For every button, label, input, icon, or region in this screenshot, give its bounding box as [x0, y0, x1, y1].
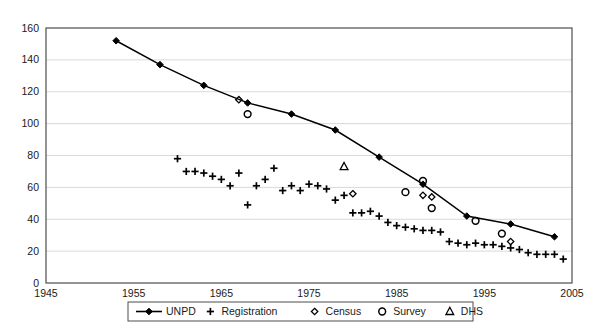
x-tick-label: 1985 [385, 287, 409, 299]
x-tick-label: 2005 [560, 287, 584, 299]
legend-label-registration: Registration [221, 305, 277, 317]
y-tick-label: 20 [27, 245, 39, 257]
y-tick-label: 40 [27, 213, 39, 225]
legend-label-dhs: DHS [461, 305, 483, 317]
legend-label-survey: Survey [393, 305, 426, 317]
x-tick-label: 1955 [122, 287, 146, 299]
chart-legend: UNPDRegistrationCensusSurveyDHS [128, 302, 483, 321]
x-tick-label: 1945 [34, 287, 58, 299]
legend-label-unpd: UNPD [166, 305, 196, 317]
x-tick-label: 1995 [473, 287, 497, 299]
y-tick-label: 60 [27, 181, 39, 193]
x-tick-label: 1975 [297, 287, 321, 299]
chart-background [0, 0, 595, 331]
legend-label-census: Census [326, 305, 362, 317]
x-tick-label: 1965 [210, 287, 234, 299]
y-tick-label: 80 [27, 149, 39, 161]
y-tick-label: 160 [21, 22, 39, 34]
line-scatter-chart: 020406080100120140160 194519551965197519… [0, 0, 595, 331]
chart-container: 020406080100120140160 194519551965197519… [0, 0, 595, 331]
y-tick-label: 140 [21, 53, 39, 65]
y-tick-label: 120 [21, 85, 39, 97]
y-tick-label: 100 [21, 117, 39, 129]
